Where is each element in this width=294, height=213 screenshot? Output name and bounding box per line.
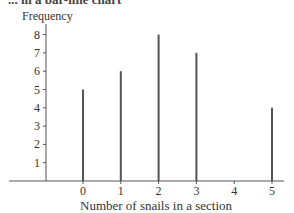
y-tick-label: 1 [26, 155, 40, 170]
x-tick-label: 2 [156, 184, 162, 199]
y-tick-label: 3 [26, 119, 40, 134]
x-axis-label: Number of snails in a section [80, 198, 232, 213]
x-tick-label: 4 [231, 184, 237, 199]
x-tick-label: 3 [193, 184, 199, 199]
bars [83, 35, 272, 181]
y-tick-label: 8 [26, 27, 40, 42]
y-tick-label: 4 [26, 100, 40, 115]
y-tick-label: 2 [26, 137, 40, 152]
x-tick-label: 5 [269, 184, 275, 199]
bar-line-chart [0, 0, 294, 213]
x-tick-label: 0 [80, 184, 86, 199]
axes [9, 24, 284, 181]
y-tick-label: 7 [26, 45, 40, 60]
x-tick-label: 1 [118, 184, 124, 199]
y-tick-label: 5 [26, 82, 40, 97]
y-tick-label: 6 [26, 64, 40, 79]
